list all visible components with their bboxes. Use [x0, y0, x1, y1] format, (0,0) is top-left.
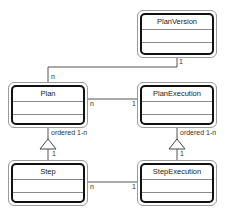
class-planversion[interactable]: PlanVersion	[137, 10, 217, 58]
association-planversion-plan	[48, 58, 177, 82]
uml-diagram-canvas: PlanVersion Plan PlanExecution Step Step	[0, 0, 230, 216]
class-step-body: Step	[11, 163, 85, 203]
multiplicity-label: 1	[132, 183, 136, 191]
class-name: Plan	[13, 87, 83, 102]
class-plan-body: Plan	[11, 85, 85, 125]
aggregation-label: ordered 1-n	[180, 129, 216, 137]
class-name: Step	[13, 165, 83, 180]
operations-compartment	[142, 115, 212, 125]
triangle-arrow-icon	[40, 139, 56, 149]
class-name: PlanExecution	[142, 87, 212, 102]
operations-compartment	[13, 193, 83, 203]
multiplicity-label: 1	[179, 58, 183, 66]
class-name: PlanVersion	[142, 15, 212, 30]
multiplicity-label: n	[90, 100, 94, 108]
attributes-compartment	[142, 30, 212, 43]
class-name: StepExecution	[142, 165, 212, 180]
operations-compartment	[142, 193, 212, 203]
multiplicity-label: 1	[132, 100, 136, 108]
operations-compartment	[13, 115, 83, 125]
multiplicity-label: 1	[180, 150, 184, 158]
aggregation-label: ordered 1-n	[51, 129, 87, 137]
class-stepexecution-body: StepExecution	[140, 163, 214, 203]
attributes-compartment	[142, 102, 212, 115]
attributes-compartment	[142, 180, 212, 193]
multiplicity-label: 1	[52, 150, 56, 158]
multiplicity-label: n	[90, 183, 94, 191]
class-planexecution-body: PlanExecution	[140, 85, 214, 125]
operations-compartment	[142, 43, 212, 55]
class-planversion-body: PlanVersion	[140, 13, 214, 55]
attributes-compartment	[13, 180, 83, 193]
class-plan[interactable]: Plan	[8, 82, 88, 128]
class-planexecution[interactable]: PlanExecution	[137, 82, 217, 128]
attributes-compartment	[13, 102, 83, 115]
triangle-arrow-icon	[169, 139, 185, 149]
class-stepexecution[interactable]: StepExecution	[137, 160, 217, 206]
multiplicity-label: n	[51, 73, 55, 81]
class-step[interactable]: Step	[8, 160, 88, 206]
